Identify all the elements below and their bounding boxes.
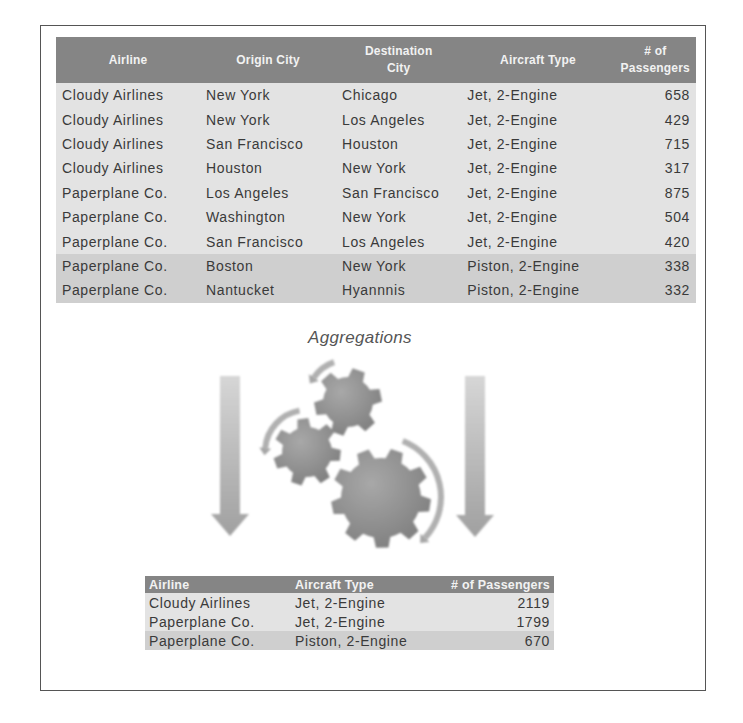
- arrow-down-icon-right: [456, 376, 494, 537]
- agg-header-aircraft-type: Aircraft Type: [291, 576, 439, 593]
- gear-icon-top: [314, 368, 382, 435]
- airline-cell: Paperplane Co.: [145, 612, 291, 631]
- passengers-cell: 2119: [439, 593, 554, 612]
- table-row: Cloudy AirlinesJet, 2-Engine2119: [145, 593, 554, 612]
- table-row: Paperplane Co.Piston, 2-Engine670: [145, 631, 554, 650]
- arrow-down-icon-left: [211, 376, 249, 536]
- gear-icon-left: [274, 418, 341, 486]
- aggregated-table-header-row: Airline Aircraft Type # of Passengers: [145, 576, 554, 593]
- gears-icon: [259, 362, 441, 548]
- aircraft-type-cell: Jet, 2-Engine: [291, 593, 439, 612]
- aircraft-type-cell: Piston, 2-Engine: [291, 631, 439, 650]
- aggregated-data-table: Airline Aircraft Type # of Passengers Cl…: [145, 576, 554, 650]
- rotation-arrow-icon-left-head: [259, 448, 271, 456]
- passengers-cell: 1799: [439, 612, 554, 631]
- aircraft-type-cell: Jet, 2-Engine: [291, 612, 439, 631]
- agg-header-airline: Airline: [145, 576, 291, 593]
- gear-icon-large: [331, 449, 431, 548]
- airline-cell: Cloudy Airlines: [145, 593, 291, 612]
- table-row: Paperplane Co.Jet, 2-Engine1799: [145, 612, 554, 631]
- airline-cell: Paperplane Co.: [145, 631, 291, 650]
- agg-header-passengers: # of Passengers: [439, 576, 554, 593]
- passengers-cell: 670: [439, 631, 554, 650]
